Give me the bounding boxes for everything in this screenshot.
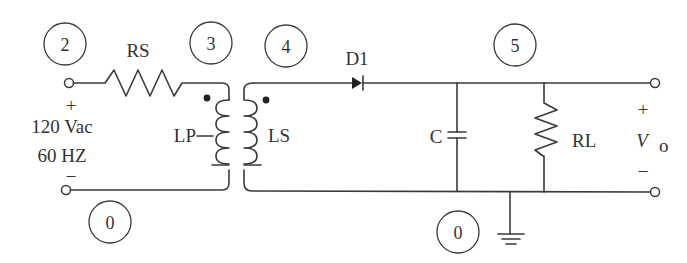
diode-d1-symbol	[352, 76, 363, 90]
output-voltage-subscript: o	[659, 135, 669, 156]
node-4-marker: 4	[265, 25, 307, 67]
circuit-diagram: 2 3 4 5 0 0 + 120 Vac 60 HZ − RS LP LS	[0, 0, 687, 263]
svg-text:2: 2	[61, 35, 70, 55]
node-2-marker: 2	[44, 23, 86, 65]
ground-symbol	[498, 192, 524, 244]
node-0-left-marker: 0	[89, 201, 131, 243]
source-frequency-label: 60 HZ	[37, 145, 86, 166]
svg-text:4: 4	[282, 37, 291, 57]
primary-polarity-dot	[204, 95, 211, 102]
output-voltage-label: V	[636, 130, 650, 151]
svg-text:3: 3	[207, 34, 216, 54]
input-terminal-plus	[65, 79, 74, 88]
output-minus-sign: −	[638, 161, 649, 182]
svg-text:0: 0	[454, 223, 463, 243]
diode-d1-label: D1	[345, 48, 368, 69]
primary-return-wire	[71, 170, 230, 190]
node-0-right-marker: 0	[437, 211, 479, 253]
output-terminal-plus	[651, 79, 660, 88]
capacitor-c-label: C	[430, 126, 443, 147]
inductor-ls-symbol	[244, 83, 257, 164]
resistor-rl-symbol	[535, 83, 557, 192]
svg-text:0: 0	[106, 213, 115, 233]
source-minus-sign: −	[66, 166, 77, 187]
source-plus-sign: +	[66, 95, 77, 116]
node-5-marker: 5	[494, 24, 536, 66]
inductor-lp-label: LP	[174, 125, 196, 146]
resistor-rl-label: RL	[572, 130, 596, 151]
output-plus-sign: +	[638, 99, 649, 120]
inductor-lp-symbol	[216, 100, 229, 164]
node-3-marker: 3	[190, 22, 232, 64]
output-terminal-minus	[651, 188, 660, 197]
secondary-return-wire	[244, 170, 651, 192]
capacitor-c-symbol	[448, 83, 466, 191]
secondary-polarity-dot	[263, 97, 270, 104]
inductor-ls-label: LS	[268, 125, 290, 146]
svg-text:5: 5	[511, 36, 520, 56]
source-voltage-label: 120 Vac	[31, 116, 92, 137]
resistor-rs-label: RS	[126, 40, 149, 61]
